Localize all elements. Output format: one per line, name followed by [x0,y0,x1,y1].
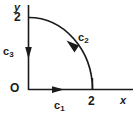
x-axis-tick-label-2: 2 [88,95,95,107]
path-label-c2: c2 [78,32,89,43]
path-label-c1: c1 [54,100,65,111]
path-label-c1-subscript: 1 [60,104,64,113]
path-label-c3-subscript: 3 [9,50,13,59]
path-label-c3: c3 [3,46,14,57]
y-axis-tick-label-2: 2 [14,11,21,23]
c1-arrowhead [52,86,64,93]
x-axis-label: x [120,95,126,106]
origin-label: O [10,82,19,94]
c3-arrowhead [25,47,32,59]
path-label-c2-subscript: 2 [84,36,88,45]
quarter-arc-c2 [29,18,93,91]
math-contour-figure: y x 2 2 O c1 c2 c3 [0,0,139,116]
